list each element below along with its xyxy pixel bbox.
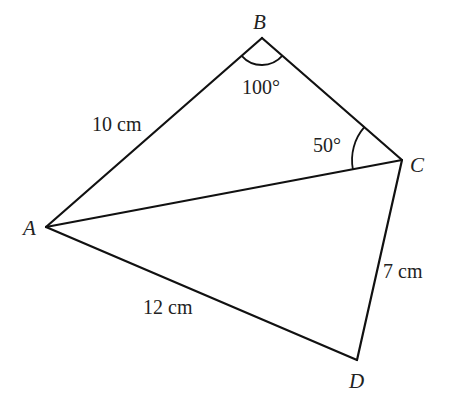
angle-label-c: 50° bbox=[313, 134, 341, 156]
angle-label-b: 100° bbox=[242, 76, 280, 98]
angle-arc-c bbox=[352, 127, 364, 169]
diagonal-ac bbox=[46, 160, 402, 227]
side-label-ab: 10 cm bbox=[92, 113, 142, 135]
vertex-label-c: C bbox=[410, 153, 425, 177]
geometry-diagram: B C A D 100° 50° 10 cm 12 cm 7 cm bbox=[0, 0, 452, 410]
side-label-ad: 12 cm bbox=[143, 296, 193, 318]
diagram-svg: B C A D 100° 50° 10 cm 12 cm 7 cm bbox=[0, 0, 452, 410]
angle-arc-b bbox=[242, 56, 283, 65]
side-ad bbox=[46, 227, 357, 360]
vertex-label-b: B bbox=[253, 10, 266, 34]
side-label-cd: 7 cm bbox=[383, 260, 423, 282]
side-ab bbox=[46, 38, 262, 227]
vertex-label-a: A bbox=[21, 216, 36, 240]
vertex-label-d: D bbox=[348, 369, 364, 393]
